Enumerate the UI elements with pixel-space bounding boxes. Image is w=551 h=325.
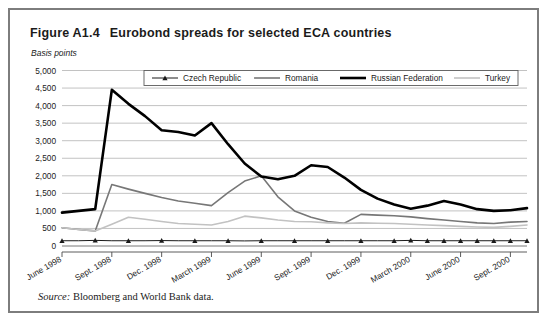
y-tick-label: 2,000 <box>35 171 56 181</box>
figure-panel: Figure A1.4Eurobond spreads for selected… <box>8 8 539 313</box>
x-tick-label: Sept. 1999 <box>272 254 312 283</box>
x-tick-label: June 1998 <box>24 254 63 282</box>
legend-label: Romania <box>285 73 319 83</box>
x-tick-label: March 2000 <box>369 254 412 285</box>
source-text: Bloomberg and World Bank data. <box>73 291 214 302</box>
y-tick-label: 4,500 <box>35 83 56 93</box>
x-tick-label: Dec. 1998 <box>125 254 163 282</box>
gridlines <box>62 71 527 247</box>
y-tick-label: 2,500 <box>35 153 56 163</box>
x-tick-label: March 1999 <box>170 254 213 285</box>
chart-legend: Czech RepublicRomaniaRussian FederationT… <box>144 71 518 86</box>
y-tick-label: 4,000 <box>35 101 56 111</box>
x-tick-label: Dec. 1999 <box>324 254 362 282</box>
data-series <box>59 90 529 243</box>
y-tick-label: 1,500 <box>35 188 56 198</box>
source-note: Source: Bloomberg and World Bank data. <box>38 291 214 302</box>
legend-label: Russian Federation <box>371 73 443 83</box>
y-tick-label: 5,000 <box>35 66 56 76</box>
x-tick-label: June 1999 <box>224 254 263 282</box>
x-tick-label: June 2000 <box>423 254 462 282</box>
y-tick-label: 3,000 <box>35 136 56 146</box>
y-tick-label: 3,500 <box>35 118 56 128</box>
eurobond-spreads-line-chart: 05001,0001,5002,0002,5003,0003,5004,0004… <box>10 10 541 315</box>
x-axis-ticks: June 1998Sept. 1998Dec. 1998March 1999Ju… <box>24 254 511 285</box>
y-axis-ticks: 05001,0001,5002,0002,5003,0003,5004,0004… <box>35 66 56 252</box>
x-tick-label: Sept. 2000 <box>472 254 512 283</box>
y-tick-label: 1,000 <box>35 206 56 216</box>
legend-label: Turkey <box>485 73 511 83</box>
source-label: Source: <box>38 291 70 302</box>
y-tick-label: 0 <box>51 241 56 251</box>
y-tick-label: 500 <box>42 223 56 233</box>
series-line <box>62 90 527 213</box>
legend-label: Czech Republic <box>183 73 241 83</box>
x-tick-label: Sept. 1998 <box>73 254 113 283</box>
